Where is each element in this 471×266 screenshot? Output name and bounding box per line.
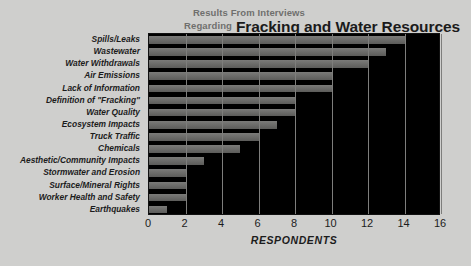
bar — [149, 145, 240, 153]
bar — [149, 182, 186, 190]
bar — [149, 36, 405, 44]
y-axis-label: Aesthetic/Community Impacts — [0, 154, 144, 166]
x-axis-title: RESPONDENTS — [148, 234, 440, 246]
plot-area — [148, 33, 440, 215]
bar-row — [149, 107, 439, 119]
bar-row — [149, 131, 439, 143]
gridline — [332, 34, 333, 214]
chart-title-block: Results From Interviews RegardingFrackin… — [0, 8, 460, 36]
bar-row — [149, 180, 439, 192]
y-axis-category-labels: Spills/LeaksWastewaterWater WithdrawalsA… — [0, 33, 144, 215]
bar-row — [149, 155, 439, 167]
bar-row — [149, 143, 439, 155]
bar-row — [149, 167, 439, 179]
y-axis-label: Water Withdrawals — [0, 57, 144, 69]
gridline — [441, 34, 442, 214]
bar-row — [149, 192, 439, 204]
x-axis-tick: 4 — [206, 217, 236, 229]
y-axis-label: Ecosystem Impacts — [0, 118, 144, 130]
x-axis-tick: 10 — [316, 217, 346, 229]
y-axis-label: Stormwater and Erosion — [0, 166, 144, 178]
bar — [149, 133, 259, 141]
x-axis-tick: 16 — [425, 217, 455, 229]
bar-row — [149, 119, 439, 131]
x-axis-tick: 2 — [170, 217, 200, 229]
y-axis-label: Air Emissions — [0, 69, 144, 81]
bar-row — [149, 46, 439, 58]
x-axis-tick: 12 — [352, 217, 382, 229]
y-axis-label: Definition of "Fracking" — [0, 94, 144, 106]
bar-row — [149, 83, 439, 95]
x-axis-tick-labels: 0246810121416 — [0, 217, 471, 233]
x-axis-tick: 0 — [133, 217, 163, 229]
bar — [149, 72, 332, 80]
bar-row — [149, 70, 439, 82]
y-axis-label: Earthquakes — [0, 203, 144, 215]
bar-row — [149, 34, 439, 46]
y-axis-label: Worker Health and Safety — [0, 191, 144, 203]
bar-row — [149, 95, 439, 107]
gridline — [259, 34, 260, 214]
y-axis-label: Surface/Mineral Rights — [0, 179, 144, 191]
bar-row — [149, 58, 439, 70]
x-axis-tick: 8 — [279, 217, 309, 229]
chart-figure: Results From Interviews RegardingFrackin… — [0, 0, 471, 266]
gridline — [368, 34, 369, 214]
bar-series — [149, 34, 439, 214]
bar — [149, 206, 167, 214]
x-axis-tick: 6 — [243, 217, 273, 229]
chart-title-kicker-line1: Results From Interviews — [0, 8, 460, 18]
y-axis-label: Wastewater — [0, 45, 144, 57]
bar — [149, 169, 186, 177]
bar — [149, 194, 186, 202]
gridline — [295, 34, 296, 214]
gridline — [186, 34, 187, 214]
y-axis-label: Chemicals — [0, 142, 144, 154]
y-axis-label: Spills/Leaks — [0, 33, 144, 45]
bar — [149, 85, 332, 93]
y-axis-label: Truck Traffic — [0, 130, 144, 142]
gridline — [222, 34, 223, 214]
y-axis-label: Lack of Information — [0, 82, 144, 94]
bar — [149, 157, 204, 165]
x-axis-tick: 14 — [389, 217, 419, 229]
bar-row — [149, 204, 439, 216]
chart-title-kicker-line2: Regarding — [184, 20, 232, 31]
gridline — [405, 34, 406, 214]
y-axis-label: Water Quality — [0, 106, 144, 118]
